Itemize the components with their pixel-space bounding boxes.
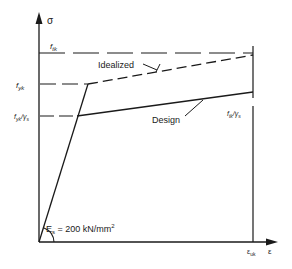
ultimate-strain-label: εuk: [247, 248, 256, 257]
idealized-leader-2: [143, 64, 157, 70]
x-axis-label: ε: [268, 247, 272, 256]
fyk-gs-label: fyk/γs: [14, 113, 29, 122]
fyk-label: fyk: [16, 81, 25, 91]
design-label: Design: [152, 115, 180, 125]
y-axis-label: σ: [47, 15, 54, 26]
idealized-curve: [39, 55, 253, 242]
stress-strain-diagram: σ ftk fyk fyk/γs ftk/γs Idealized Design…: [0, 0, 292, 269]
ftk-gs-label: ftk/γs: [227, 110, 241, 119]
y-axis-arrow-icon: [36, 12, 43, 24]
design-leader: [185, 100, 203, 116]
idealized-leader: [156, 64, 160, 72]
x-axis-arrow-icon: [266, 239, 278, 246]
ftk-label: ftk: [50, 42, 58, 52]
idealized-label: Idealized: [98, 60, 134, 70]
modulus-label: Es = 200 kN/mm2: [46, 223, 115, 235]
